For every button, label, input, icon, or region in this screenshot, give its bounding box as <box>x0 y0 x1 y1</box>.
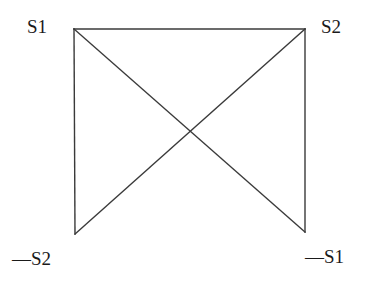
label-not-s2: —S2 <box>12 249 51 268</box>
label-not-s1: —S1 <box>305 247 344 266</box>
label-s1: S1 <box>27 17 47 36</box>
edge-left <box>74 29 75 234</box>
semiotic-square-diagram: S1 S2 —S2 —S1 <box>0 0 367 290</box>
label-s2: S2 <box>321 17 341 36</box>
